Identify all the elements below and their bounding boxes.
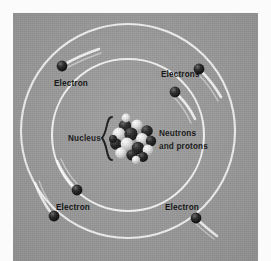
trail-outer-top-left — [65, 49, 99, 64]
figure-canvas: Nucleus Neutrons and protons Electron El… — [0, 0, 271, 261]
atom-diagram: Nucleus Neutrons and protons Electron El… — [13, 13, 258, 261]
label-electrons-top-right: Electrons — [161, 70, 200, 79]
trail-outer-bottom-left — [35, 183, 51, 213]
electron-outer-bottom-left-icon — [49, 211, 60, 222]
label-neutrons-line1: Neutrons — [159, 129, 196, 138]
electron-inner-top-right-icon — [170, 87, 181, 98]
label-nucleus: Nucleus — [68, 134, 101, 143]
illustration-plate: Nucleus Neutrons and protons Electron El… — [13, 13, 258, 261]
label-electron-bottom-left: Electron — [56, 203, 90, 212]
label-neutrons-line2: and protons — [159, 142, 208, 151]
nucleus-cluster-icon — [109, 114, 156, 165]
label-electron-bottom-right: Electron — [165, 203, 199, 212]
trail-outer-top-right — [202, 72, 221, 97]
electron-inner-bottom-left-icon — [72, 185, 83, 196]
trail-inner-bottom-left — [57, 161, 74, 187]
label-electron-top-left: Electron — [54, 79, 88, 88]
electron-outer-top-left-icon — [57, 61, 68, 72]
electron-outer-bottom-right-icon — [191, 213, 202, 224]
